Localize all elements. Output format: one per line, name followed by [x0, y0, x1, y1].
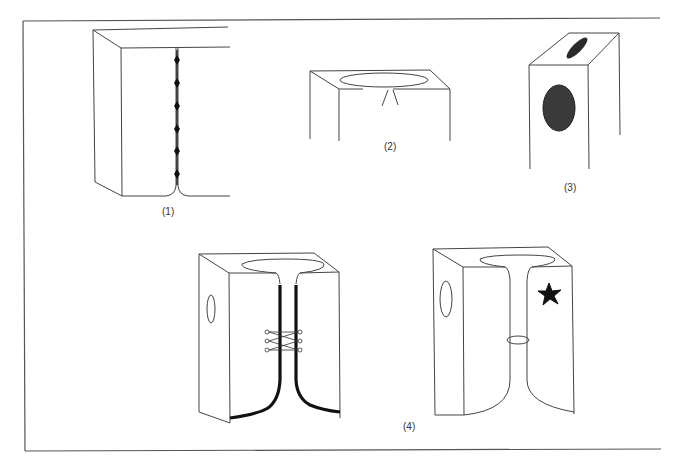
star-icon: [538, 283, 561, 305]
top-face-oval: [564, 35, 590, 61]
side-oval: [440, 281, 452, 317]
notch-marker: [382, 90, 398, 106]
panel-2-block-oval-opening: [310, 70, 450, 141]
panel-1-block-stitched-seam: [93, 27, 230, 196]
panel-3-label: (3): [564, 182, 576, 193]
side-oval: [207, 295, 215, 323]
diagram-canvas: [0, 0, 674, 463]
panel-4-label: (4): [403, 421, 415, 432]
figure-frame: [23, 18, 661, 451]
panel-1-label: (1): [162, 206, 174, 217]
panel-4-left-block-laced-slit: [199, 253, 340, 423]
panel-4-right-block-ring-star: [433, 247, 574, 415]
panel-2-label: (2): [384, 141, 396, 152]
panel-3-block-shaded-ovals: [529, 33, 620, 169]
front-face-oval: [543, 85, 575, 131]
